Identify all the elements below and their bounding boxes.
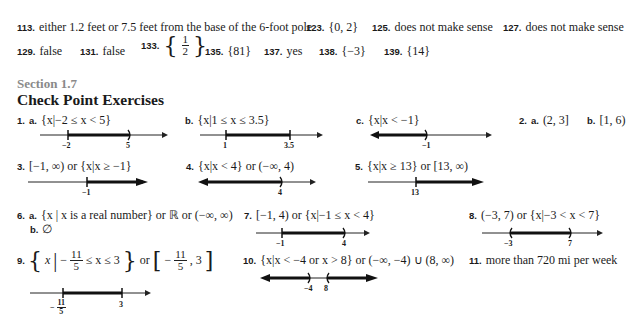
- answer-text: does not make sense: [526, 20, 624, 35]
- exercise-7: 7. [−1, 4) or {x|−1 ≤ x < 4}: [244, 208, 375, 223]
- left-brace: {: [28, 251, 42, 271]
- answer-text: yes: [287, 44, 303, 59]
- answer-number: 113.: [17, 22, 35, 33]
- answer-text: {−3}: [342, 44, 366, 59]
- answer-text: {81}: [228, 44, 252, 59]
- tick-label: 7: [568, 239, 572, 248]
- answer-number: 139.: [384, 46, 403, 57]
- left-bracket: [: [153, 251, 162, 271]
- number-line-5: 13: [368, 175, 493, 199]
- number-line-1b: 1 3.5: [200, 128, 325, 152]
- answer-number: 133.: [141, 40, 160, 51]
- exercise-number: 1.: [17, 115, 25, 126]
- exercise-10: 10. {x|x < −4 or x > 8} or (−∞, −4) ∪ (8…: [243, 253, 454, 268]
- exercise-4: 4. {x|x < 4} or (−∞, 4): [186, 159, 294, 174]
- exercise-1a: 1. a. {x|−2 ≤ x < 5}: [17, 113, 111, 128]
- tick-label: 1: [223, 141, 227, 150]
- exercise-part: a.: [29, 210, 37, 221]
- answer-text: does not make sense: [395, 20, 493, 35]
- exercise-number: 5.: [355, 161, 363, 172]
- answer-text: false: [103, 44, 126, 59]
- exercise-text: {x|x < 4} or (−∞, 4): [198, 159, 294, 174]
- denominator: 5: [59, 308, 63, 314]
- exercise-number: 2.: [519, 115, 527, 126]
- answer-text: {14}: [407, 44, 431, 59]
- exercise-6b: b. ∅: [30, 222, 52, 237]
- answer-123: 123. {0, 2}: [306, 20, 358, 35]
- answer-135: 135. {81}: [205, 44, 251, 59]
- exercise-3: 3. [−1, ∞) or {x|x ≥ −1}: [17, 159, 132, 174]
- exercise-number: 9.: [17, 255, 25, 266]
- exercise-number: 7.: [244, 210, 252, 221]
- number-line-1c: −1: [370, 128, 495, 152]
- right-brace: }: [123, 251, 137, 271]
- denominator: 5: [178, 261, 184, 272]
- minus-sign: −: [50, 303, 55, 312]
- tick-label: 13: [411, 188, 419, 197]
- tick-label: 4: [278, 188, 282, 197]
- exercise-1b: b. {x|1 ≤ x ≤ 3.5}: [185, 113, 270, 128]
- section-label: Section 1.7: [17, 76, 77, 92]
- exercise-text: ∅: [42, 222, 52, 237]
- tick-label: −1: [276, 239, 285, 248]
- tick-label: 3: [119, 300, 123, 309]
- exercise-part: c.: [356, 115, 364, 126]
- tick-label: 8: [324, 284, 328, 293]
- section-heading: Check Point Exercises: [17, 91, 164, 109]
- exercise-number: 8.: [469, 210, 477, 221]
- number-line-9: − 11 5 3: [30, 286, 155, 314]
- set-variable: x: [45, 253, 50, 268]
- exercise-text: {x|x < −1}: [368, 113, 419, 128]
- exercise-9: 9. { x | − 11 5 ≤ x ≤ 3 } or [ − 11 5 , …: [17, 249, 213, 272]
- tick-label: 4: [342, 239, 346, 248]
- answer-125: 125. does not make sense: [372, 20, 493, 35]
- exercise-text: {x | x is a real number} or ℝ or (−∞, ∞): [41, 208, 233, 223]
- exercise-text: (−3, 7) or {x|−3 < x < 7}: [481, 208, 600, 223]
- exercise-text: [1, 6): [599, 113, 625, 128]
- answer-text: false: [40, 44, 63, 59]
- number-line-8: −3 7: [482, 226, 607, 250]
- exercise-number: 4.: [186, 161, 194, 172]
- exercise-number: 3.: [17, 161, 25, 172]
- number-line-4: 4: [198, 175, 323, 199]
- exercise-number: 6.: [17, 210, 25, 221]
- exercise-text: [−1, 4) or {x|−1 ≤ x < 4}: [256, 208, 375, 223]
- tick-label: −2: [62, 141, 71, 150]
- exercise-part: b.: [185, 115, 193, 126]
- answer-number: 137.: [264, 46, 283, 57]
- exercise-2a: 2. a. (2, 3]: [519, 113, 569, 128]
- fraction: 11 5: [57, 299, 67, 314]
- answer-number: 127.: [503, 22, 522, 33]
- exercise-part: b.: [587, 115, 595, 126]
- exercise-part: a.: [531, 115, 539, 126]
- answer-139: 139. {14}: [384, 44, 430, 59]
- answer-number: 135.: [205, 46, 224, 57]
- exercise-5: 5. {x|x ≥ 13} or [13, ∞): [355, 159, 468, 174]
- answer-127: 127. does not make sense: [503, 20, 624, 35]
- answer-131: 131. false: [80, 44, 125, 59]
- tick-label: 5: [126, 141, 130, 150]
- exercise-text: {x|−2 ≤ x < 5}: [41, 113, 111, 128]
- tick-label: −4: [304, 284, 313, 293]
- number-line-3: −1: [28, 175, 153, 199]
- answer-138: 138. {−3}: [319, 44, 366, 59]
- tick-label: −1: [82, 188, 91, 197]
- answer-number: 125.: [372, 22, 391, 33]
- exercise-number: 10.: [243, 255, 256, 266]
- exercise-text: {x|1 ≤ x ≤ 3.5}: [197, 113, 269, 128]
- tick-label: −1: [422, 141, 431, 150]
- answer-number: 138.: [319, 46, 338, 57]
- exercise-1c: c. {x|x < −1}: [356, 113, 419, 128]
- number-line-1a: −2 5: [40, 128, 170, 152]
- exercise-text: {x|x < −4 or x > 8} or (−∞, −4) ∪ (8, ∞): [260, 253, 454, 268]
- answer-number: 131.: [80, 46, 99, 57]
- answer-137: 137. yes: [264, 44, 303, 59]
- denominator: 5: [74, 261, 80, 272]
- interval-end: , 3: [190, 253, 202, 268]
- left-brace: {: [164, 36, 178, 56]
- tick-label: −3: [504, 239, 513, 248]
- divider-bar: |: [53, 249, 57, 272]
- or-text: or: [140, 253, 150, 268]
- exercise-number: 11.: [469, 255, 482, 266]
- answer-number: 123.: [306, 22, 325, 33]
